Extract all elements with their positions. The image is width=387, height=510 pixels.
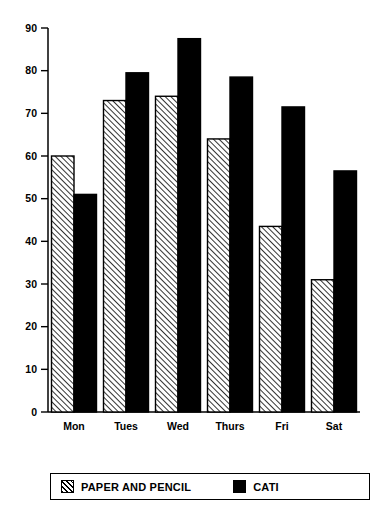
- y-axis-tick-label: 50: [25, 192, 37, 204]
- y-axis-tick-label: 70: [25, 107, 37, 119]
- y-axis-tick-label: 60: [25, 150, 37, 162]
- x-axis-category-label: Sat: [326, 420, 343, 432]
- bar: [334, 171, 357, 412]
- bar: [282, 107, 305, 412]
- bar: [312, 280, 335, 412]
- x-axis-category-labels: MonTuesWedThursFriSat: [63, 420, 342, 432]
- plot-area: 0102030405060708090 MonTuesWedThursFriSa…: [0, 0, 387, 440]
- legend-swatch-solid-icon: [233, 480, 246, 493]
- y-axis-tick-label: 30: [25, 278, 37, 290]
- bar: [104, 101, 127, 412]
- legend-label-cati: CATI: [253, 481, 279, 493]
- bar: [230, 77, 253, 412]
- bar: [126, 73, 149, 412]
- chart-svg: 0102030405060708090 MonTuesWedThursFriSa…: [0, 0, 387, 440]
- y-axis-tick-label: 80: [25, 64, 37, 76]
- y-axis-tick-label: 20: [25, 320, 37, 332]
- bar-chart: 0102030405060708090 MonTuesWedThursFriSa…: [0, 0, 387, 510]
- bar: [208, 139, 231, 412]
- y-axis-ticks: 0102030405060708090: [25, 22, 48, 418]
- x-axis-category-label: Tues: [114, 420, 138, 432]
- bar: [74, 194, 97, 412]
- x-axis-category-label: Mon: [63, 420, 85, 432]
- x-axis-category-label: Wed: [167, 420, 189, 432]
- bar: [178, 39, 201, 412]
- bar: [156, 96, 179, 412]
- legend-swatch-hatch-icon: [61, 480, 74, 493]
- y-axis-tick-label: 40: [25, 235, 37, 247]
- legend-entry-paper-and-pencil: PAPER AND PENCIL: [61, 474, 191, 499]
- y-axis-tick-label: 0: [31, 406, 37, 418]
- y-axis-tick-label: 90: [25, 22, 37, 34]
- y-axis-tick-label: 10: [25, 363, 37, 375]
- bar-group-container: [52, 39, 357, 412]
- legend-entry-cati: CATI: [233, 474, 279, 499]
- chart-legend: PAPER AND PENCIL CATI: [50, 473, 370, 500]
- legend-label-paper-and-pencil: PAPER AND PENCIL: [81, 481, 191, 493]
- bar: [260, 226, 283, 412]
- x-axis-category-label: Fri: [275, 420, 289, 432]
- bar: [52, 156, 75, 412]
- x-axis-category-label: Thurs: [215, 420, 244, 432]
